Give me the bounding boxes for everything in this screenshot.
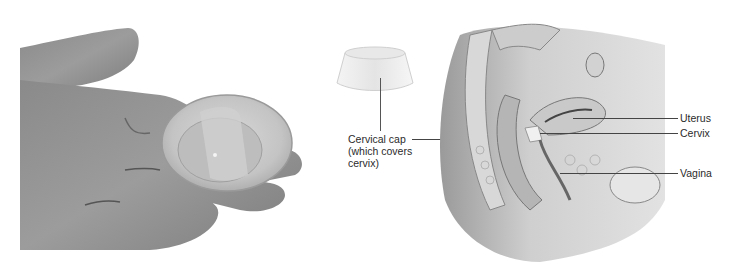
uterus-leader [573, 118, 678, 119]
vagina-label: Vagina [680, 167, 712, 179]
hand-with-cervical-cap-photo [0, 0, 310, 275]
cervix-leader [540, 133, 678, 134]
cervical-cap-label: Cervical cap (which covers cervix) [348, 133, 412, 169]
cervical-cap-illustration [335, 45, 415, 95]
uterus-label: Uterus [680, 112, 711, 124]
cap-leader-line [380, 78, 381, 131]
pelvic-anatomy-illustration [420, 0, 665, 275]
cervix-label: Cervix [680, 127, 710, 139]
vagina-leader [560, 173, 678, 174]
